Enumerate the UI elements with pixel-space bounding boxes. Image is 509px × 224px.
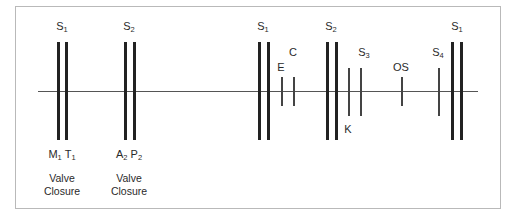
- label-s2-second: S2: [325, 20, 337, 32]
- s2-p2-line: [133, 42, 136, 140]
- caption-valve-closure-1: ValveClosure: [44, 172, 80, 198]
- label-k: K: [344, 123, 351, 135]
- s2-second-line-b: [335, 42, 338, 140]
- label-s4: S4: [432, 46, 444, 58]
- label-c: C: [289, 46, 297, 58]
- caption-valve-closure-2: ValveClosure: [111, 172, 147, 198]
- s1-second-line-a: [258, 42, 261, 140]
- label-s1-second: S1: [257, 20, 269, 32]
- s1-m1-line: [57, 42, 60, 140]
- knock-line: [348, 68, 350, 116]
- label-s2: S2: [123, 20, 135, 32]
- label-m1-t1: M1 T1: [48, 148, 75, 160]
- s1-third-line-b: [460, 42, 463, 140]
- label-os: OS: [393, 61, 409, 73]
- opening-snap-line: [401, 77, 403, 106]
- s2-second-line-a: [326, 42, 329, 140]
- s1-t1-line: [65, 42, 68, 140]
- ejection-click-line: [281, 77, 283, 106]
- s2-a2-line: [124, 42, 127, 140]
- s3-line: [360, 68, 362, 116]
- label-s1: S1: [56, 20, 68, 32]
- s1-third-line-a: [451, 42, 454, 140]
- label-e: E: [277, 61, 284, 73]
- label-s3: S3: [358, 46, 370, 58]
- click-line: [293, 77, 295, 106]
- label-a2-p2: A2 P2: [116, 148, 142, 160]
- label-s1-third: S1: [451, 20, 463, 32]
- s4-line: [438, 68, 440, 116]
- s1-second-line-b: [267, 42, 270, 140]
